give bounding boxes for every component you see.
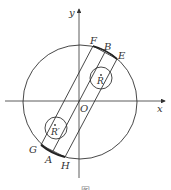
geometry-diagram: y x O F B E G A H R R′ 图 xyxy=(0,0,171,190)
x-axis-label: x xyxy=(157,103,163,114)
point-E-label: E xyxy=(117,50,126,61)
figure-caption: 图 xyxy=(81,186,90,190)
upper-circle-label: R xyxy=(96,76,104,86)
point-G-label: G xyxy=(29,144,37,155)
lower-center-dot xyxy=(54,124,56,126)
lower-circle-label: R′ xyxy=(50,127,60,137)
point-F-label: F xyxy=(89,35,98,46)
point-B-label: B xyxy=(103,41,111,52)
point-A-label: A xyxy=(44,154,52,165)
large-circle xyxy=(23,45,137,159)
point-H-label: H xyxy=(60,160,70,171)
origin-label: O xyxy=(80,103,88,114)
y-axis-label: y xyxy=(68,7,75,18)
